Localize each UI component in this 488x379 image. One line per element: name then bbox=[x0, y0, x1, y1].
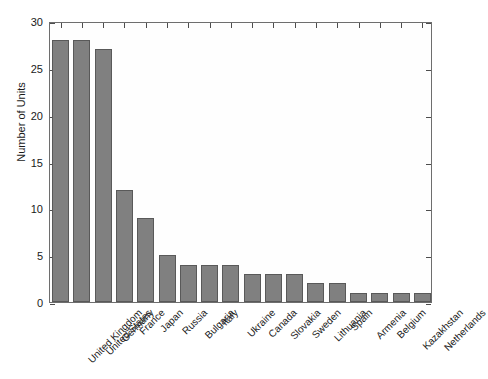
x-tick-label: Spain bbox=[349, 307, 375, 333]
x-tick-label: United Kingdom bbox=[85, 307, 143, 365]
